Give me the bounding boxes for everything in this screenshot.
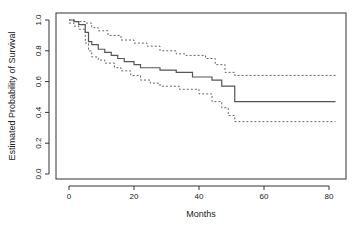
y-tick-label: 1.0 <box>34 14 43 26</box>
series-layer <box>69 20 336 122</box>
x-axis: 020406080 <box>67 186 334 201</box>
survival-chart: 020406080 0.00.20.40.60.81.0 Months Esti… <box>0 0 364 228</box>
y-tick-label: 0.2 <box>34 137 43 149</box>
x-tick-label: 20 <box>130 192 139 201</box>
x-tick-label: 0 <box>67 192 72 201</box>
y-tick-label: 0.6 <box>34 75 43 87</box>
y-axis: 0.00.20.40.60.81.0 <box>34 14 49 180</box>
x-tick-label: 80 <box>325 192 334 201</box>
survival-curve <box>69 20 336 102</box>
y-tick-label: 0.4 <box>34 106 43 118</box>
y-tick-label: 0.8 <box>34 45 43 57</box>
x-tick-label: 60 <box>260 192 269 201</box>
y-axis-label: Estimated Probability of Survival <box>7 31 17 160</box>
lower-ci-curve <box>69 23 336 122</box>
y-tick-label: 0.0 <box>34 168 43 180</box>
x-tick-label: 40 <box>195 192 204 201</box>
upper-ci-curve <box>69 20 336 75</box>
x-axis-label: Months <box>186 209 216 219</box>
plot-frame <box>56 13 346 179</box>
